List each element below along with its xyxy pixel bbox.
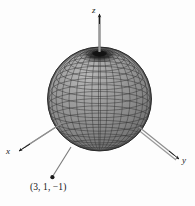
y-axis-label: y xyxy=(182,156,186,165)
y-axis-visible xyxy=(139,127,174,155)
sphere-group xyxy=(48,47,152,157)
x-axis-arrow xyxy=(19,144,30,151)
center-point-callout xyxy=(50,147,71,179)
sphere-figure-svg xyxy=(0,0,195,206)
x-axis-label: x xyxy=(6,147,10,156)
callout-leader-line xyxy=(54,147,72,175)
figure-container: z x y (3, 1, −1) xyxy=(0,0,195,206)
x-axis-visible xyxy=(25,123,62,147)
callout-dot xyxy=(50,175,54,179)
z-axis-label: z xyxy=(92,6,96,15)
center-point-coordinates-label: (3, 1, −1) xyxy=(30,182,66,192)
